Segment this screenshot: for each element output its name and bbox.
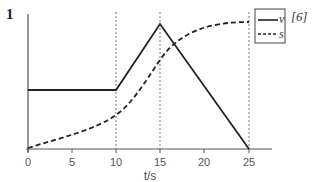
x-ticks [28, 149, 249, 153]
x-tick-label: 10 [110, 156, 122, 168]
x-tick-label: 25 [243, 156, 255, 168]
x-tick-label: 5 [69, 156, 75, 168]
x-tick-label: 15 [154, 156, 166, 168]
x-tick-label: 0 [25, 156, 31, 168]
legend-s-label: s [279, 27, 284, 41]
legend-v-label: v [279, 12, 285, 26]
x-axis-label: t/s [144, 169, 157, 182]
series-s-line [28, 22, 249, 148]
series-v-line [28, 24, 249, 149]
legend: v s [255, 9, 285, 43]
velocity-displacement-chart: 0 5 10 15 20 25 t/s v s [0, 0, 327, 182]
x-tick-label: 20 [198, 156, 210, 168]
reference-lines [116, 12, 249, 149]
